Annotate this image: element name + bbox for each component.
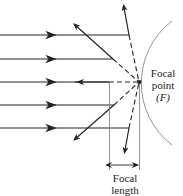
focal-length-label-line2: length — [111, 184, 139, 196]
focal-length-label-line1: Focal — [113, 172, 137, 184]
focal-length-guides — [110, 82, 140, 170]
focal-point-label-line1: Focal — [151, 67, 175, 79]
focal-point-marker — [138, 80, 142, 84]
focal-point-symbol: (F) — [156, 91, 170, 104]
focal-point-label-line2: point — [152, 79, 175, 91]
reflected-rays — [74, 5, 129, 153]
virtual-ray-extensions — [109, 35, 139, 128]
convex-mirror-diagram: Focal point (F) Focal length — [0, 0, 183, 196]
